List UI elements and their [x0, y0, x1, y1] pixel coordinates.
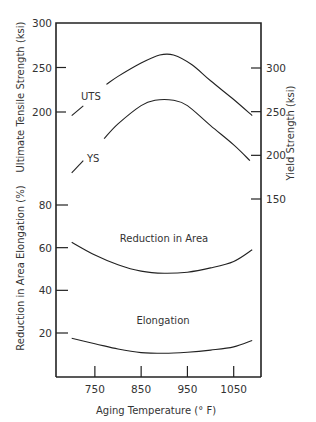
- right-tick-label-150: 150: [266, 193, 286, 205]
- right-tick-label-250: 250: [266, 106, 286, 118]
- series-ys-line-seg2: [104, 100, 250, 161]
- label-uts: UTS: [81, 91, 101, 102]
- ticks: 7508509501050300250200300250200150806040…: [32, 17, 286, 395]
- left-lower-tick-label-80: 80: [39, 199, 52, 211]
- y-axis-title-left-upper: Ultimate Tensile Strength (ksi): [15, 21, 26, 172]
- x-tick-label-850: 850: [131, 383, 151, 395]
- right-tick-label-200: 200: [266, 149, 286, 161]
- left-upper-tick-label-300: 300: [32, 17, 52, 29]
- x-tick-label-950: 950: [177, 383, 197, 395]
- y-axis-title-right: Yield Strength (ksi): [285, 85, 296, 181]
- right-tick-label-300: 300: [266, 62, 286, 74]
- label-reduction-in-area: Reduction in Area: [120, 233, 208, 244]
- y-axis-title-left-lower: Reduction in Area Elongation (%): [15, 185, 26, 350]
- chart: 7508509501050300250200300250200150806040…: [0, 0, 316, 422]
- left-lower-tick-label-20: 20: [39, 327, 52, 339]
- label-ys: YS: [86, 153, 99, 164]
- series-reduction-in-area-line: [72, 242, 253, 273]
- series-ys-line-seg1: [72, 161, 84, 173]
- x-tick-label-1050: 1050: [220, 383, 247, 395]
- x-tick-label-750: 750: [85, 383, 105, 395]
- left-upper-tick-label-200: 200: [32, 106, 52, 118]
- label-elongation: Elongation: [136, 315, 189, 326]
- left-upper-tick-label-250: 250: [32, 62, 52, 74]
- left-lower-tick-label-60: 60: [39, 242, 52, 254]
- series-uts-line-seg2: [106, 54, 252, 116]
- x-axis-title: Aging Temperature (° F): [96, 405, 216, 416]
- series-elongation-line: [72, 338, 253, 353]
- series-uts-line-seg1: [72, 106, 84, 116]
- left-lower-tick-label-40: 40: [39, 284, 52, 296]
